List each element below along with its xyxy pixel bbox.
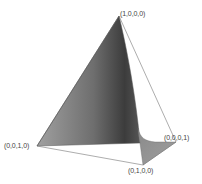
surface-main-face — [37, 16, 140, 146]
vertex-label-right: (0,0,0,1) — [164, 134, 189, 142]
simplex-canvas — [0, 0, 202, 184]
edge-v2-v4 — [37, 146, 143, 165]
simplex-diagram: (1,0,0,0) (0,0,1,0) (0,0,0,1) (0,1,0,0) — [0, 0, 202, 184]
vertex-label-left: (0,0,1,0) — [4, 142, 29, 150]
vertex-label-bottom: (0,1,0,0) — [128, 167, 153, 175]
vertex-label-top: (1,0,0,0) — [120, 10, 145, 18]
